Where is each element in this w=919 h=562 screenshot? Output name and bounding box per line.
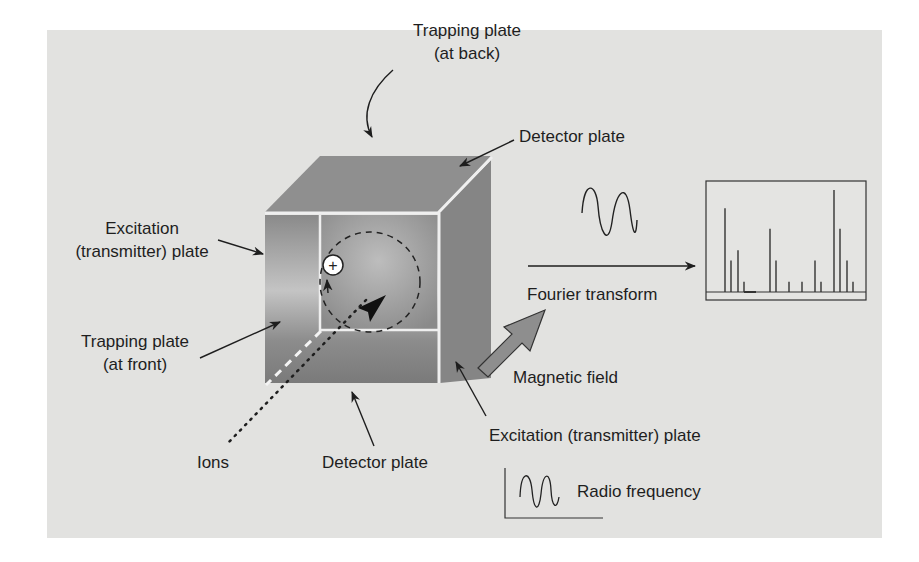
svg-text:(at back): (at back) xyxy=(434,44,500,63)
svg-text:Radio frequency: Radio frequency xyxy=(577,482,701,501)
ft-icr-diagram: + Trapping plate (at back) Detector plat… xyxy=(0,0,919,562)
svg-text:Trapping plate: Trapping plate xyxy=(413,21,521,40)
svg-text:Excitation: Excitation xyxy=(105,219,179,238)
svg-text:Detector plate: Detector plate xyxy=(519,127,625,146)
svg-text:(transmitter) plate: (transmitter) plate xyxy=(75,242,208,261)
svg-text:Detector plate: Detector plate xyxy=(322,453,428,472)
svg-text:+: + xyxy=(328,257,337,274)
svg-text:Fourier transform: Fourier transform xyxy=(527,285,657,304)
label-ions: Ions xyxy=(197,453,229,472)
positive-ion: + xyxy=(323,255,343,275)
mass-spectrum-plot xyxy=(706,181,866,300)
svg-text:Magnetic field: Magnetic field xyxy=(513,368,618,387)
svg-text:Trapping plate: Trapping plate xyxy=(81,332,189,351)
svg-text:Excitation (transmitter) plate: Excitation (transmitter) plate xyxy=(489,426,701,445)
svg-text:(at front): (at front) xyxy=(103,355,167,374)
svg-text:Ions: Ions xyxy=(197,453,229,472)
